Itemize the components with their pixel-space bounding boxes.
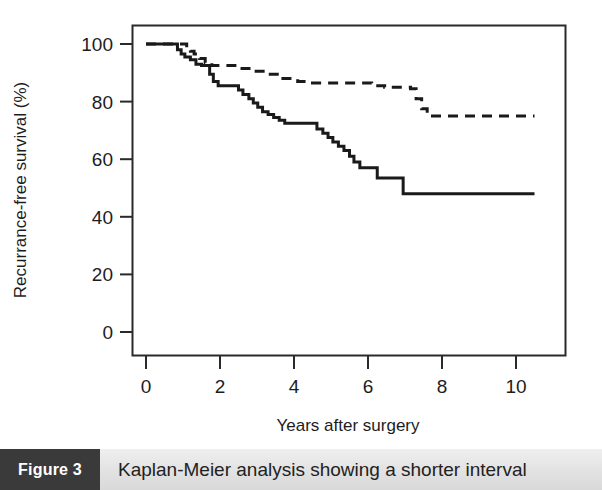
x-axis-title: Years after surgery <box>277 416 420 435</box>
y-tick-label-80: 80 <box>92 92 113 113</box>
survival-curve-dashed <box>146 44 535 116</box>
x-tick-label-8: 8 <box>437 376 448 397</box>
y-tick-label-0: 0 <box>102 322 113 343</box>
x-tick-label-4: 4 <box>289 376 300 397</box>
x-tick-label-2: 2 <box>215 376 226 397</box>
plot-frame <box>133 26 566 356</box>
curve-layer <box>146 44 535 194</box>
y-tick-label-40: 40 <box>92 207 113 228</box>
survival-curve-solid <box>146 44 535 194</box>
x-tick-label-6: 6 <box>363 376 374 397</box>
y-tick-label-60: 60 <box>92 149 113 170</box>
kaplan-meier-chart: 100 80 60 40 20 0 0 2 4 6 8 10 Years aft… <box>0 0 602 447</box>
y-axis-title: Recurrance-free survival (%) <box>11 82 30 298</box>
x-axis-ticks <box>146 355 516 369</box>
figure-caption-text: Kaplan-Meier analysis showing a shorter … <box>100 449 602 490</box>
y-tick-label-20: 20 <box>92 264 113 285</box>
figure-caption-bar: Figure 3 Kaplan-Meier analysis showing a… <box>0 449 602 490</box>
x-axis-tick-labels: 0 2 4 6 8 10 <box>141 376 527 397</box>
y-axis-ticks <box>120 44 132 332</box>
x-tick-label-10: 10 <box>505 376 526 397</box>
y-tick-label-100: 100 <box>81 34 113 55</box>
figure-number-label: Figure 3 <box>0 449 100 490</box>
x-tick-label-0: 0 <box>141 376 152 397</box>
y-axis-tick-labels: 100 80 60 40 20 0 <box>81 34 113 343</box>
figure-panel: 100 80 60 40 20 0 0 2 4 6 8 10 Years aft… <box>0 0 602 447</box>
